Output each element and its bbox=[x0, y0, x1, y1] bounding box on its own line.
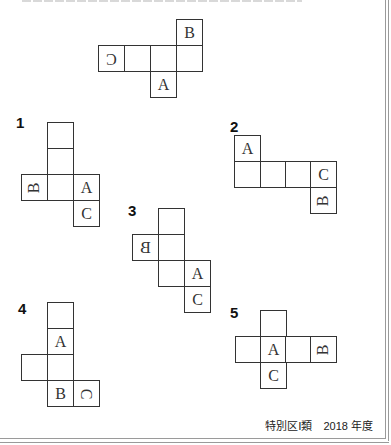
option-number: 1 bbox=[16, 114, 24, 131]
net-face bbox=[158, 208, 185, 235]
net-face bbox=[235, 336, 262, 363]
face-label: A bbox=[81, 180, 93, 196]
net-face: A bbox=[260, 336, 287, 363]
net-face: A bbox=[150, 71, 177, 98]
face-label: C bbox=[268, 368, 279, 384]
page-border-right bbox=[388, 0, 389, 441]
face-label: B bbox=[315, 195, 331, 206]
net-face: B bbox=[310, 336, 337, 363]
face-label: B bbox=[55, 386, 66, 402]
page-border-bottom bbox=[0, 442, 389, 443]
net-face: B bbox=[176, 19, 203, 46]
net-face: C bbox=[73, 380, 100, 407]
net-face: B bbox=[47, 380, 74, 407]
net-face bbox=[158, 260, 185, 287]
net-face: A bbox=[73, 174, 100, 201]
net-face bbox=[47, 302, 74, 329]
face-label: A bbox=[192, 266, 204, 282]
net-face: C bbox=[184, 286, 211, 313]
option-number: 5 bbox=[230, 304, 238, 321]
face-label: A bbox=[158, 77, 170, 93]
face-label: B bbox=[184, 25, 195, 41]
face-label: C bbox=[192, 292, 203, 308]
net-face bbox=[176, 45, 203, 72]
net-face: A bbox=[234, 135, 261, 162]
option-number: 3 bbox=[128, 202, 136, 219]
face-label: B bbox=[315, 344, 331, 355]
net-face: C bbox=[260, 362, 287, 389]
face-label: C bbox=[81, 206, 92, 222]
source-credit: 特別区Ⅰ類 2018 年度 bbox=[265, 417, 373, 433]
face-label: B bbox=[26, 182, 42, 193]
net-face bbox=[124, 45, 151, 72]
cut-off-question-text bbox=[22, 0, 302, 2]
face-label: C bbox=[78, 388, 94, 399]
net-face bbox=[47, 354, 74, 381]
net-face: A bbox=[184, 260, 211, 287]
option-number: 4 bbox=[18, 300, 26, 317]
net-face bbox=[260, 161, 287, 188]
face-label: A bbox=[242, 141, 254, 157]
net-face bbox=[150, 45, 177, 72]
net-face bbox=[285, 336, 312, 363]
net-face bbox=[234, 161, 261, 188]
page-border-bottom-inner bbox=[0, 438, 386, 439]
option-number: 2 bbox=[230, 118, 238, 135]
net-face: B bbox=[132, 234, 159, 261]
net-face: B bbox=[310, 187, 337, 214]
face-label: B bbox=[140, 240, 151, 256]
net-face bbox=[260, 310, 287, 337]
face-label: C bbox=[106, 51, 117, 67]
face-label: C bbox=[318, 167, 329, 183]
page-border-right-inner bbox=[385, 0, 386, 438]
net-face: A bbox=[47, 328, 74, 355]
net-face bbox=[285, 161, 312, 188]
face-label: A bbox=[268, 342, 280, 358]
face-label: A bbox=[55, 334, 67, 350]
net-face bbox=[158, 234, 185, 261]
net-face: B bbox=[21, 174, 48, 201]
net-face: C bbox=[310, 161, 337, 188]
net-face bbox=[47, 174, 74, 201]
net-face bbox=[47, 122, 74, 149]
net-face bbox=[21, 354, 48, 381]
net-face: C bbox=[73, 200, 100, 227]
net-face: C bbox=[98, 45, 125, 72]
net-face bbox=[47, 148, 74, 175]
